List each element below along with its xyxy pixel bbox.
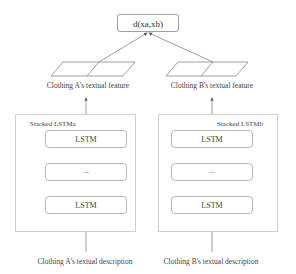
input-label-b: Clothing B's textual description (146, 257, 276, 266)
lstm-cell-a-ellipsis: ... (45, 163, 127, 181)
lstm-cell-a-top: LSTM (45, 130, 127, 148)
lstm-cell-b-top: LSTM (171, 130, 253, 148)
feature-label-b: Clothing B's textual feature (150, 81, 274, 90)
lstm-cell-b-bottom: LSTM (171, 196, 253, 214)
lstm-cell-b-ellipsis: ... (171, 163, 253, 181)
feature-label-a: Clothing A's textual feature (28, 81, 148, 90)
stacked-lstm-a-title: Stacked LSTMa (30, 120, 76, 128)
stacked-lstm-b-title: Stacked LSTMb (217, 120, 263, 128)
feature-vector-b (166, 62, 248, 76)
input-label-a: Clothing A's textual description (20, 257, 150, 266)
distance-node: d(xa,xb) (117, 14, 179, 32)
lstm-cell-a-bottom: LSTM (45, 196, 127, 214)
feature-vector-a (51, 62, 135, 76)
distance-label: d(xa,xb) (133, 19, 163, 29)
